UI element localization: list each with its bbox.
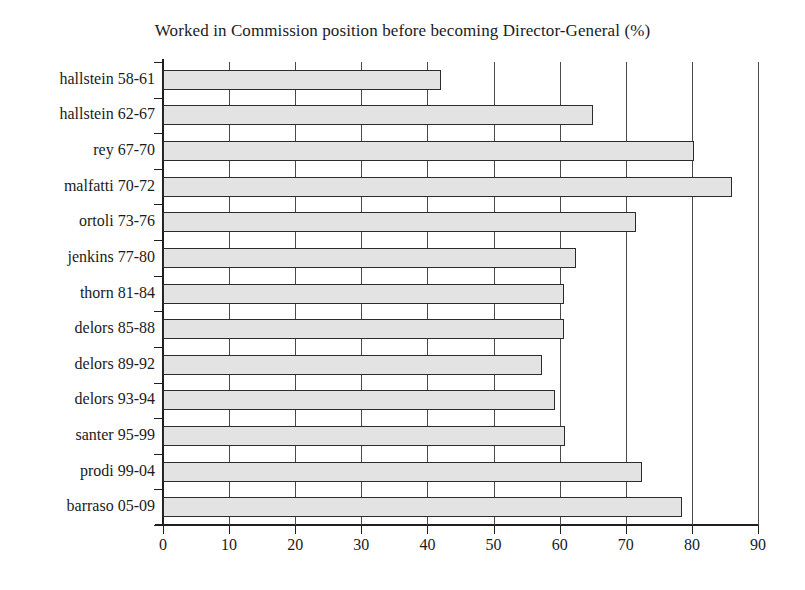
y-axis-category-label: hallstein 58-61 [5, 70, 155, 88]
bar [163, 70, 441, 90]
y-axis-tick [154, 454, 163, 455]
x-axis-tick-labels: 0102030405060708090 [163, 536, 758, 562]
x-axis-tick [626, 525, 627, 534]
x-axis-tick [295, 525, 296, 534]
gridline [692, 62, 693, 525]
x-axis-tick [361, 525, 362, 534]
bar [163, 355, 542, 375]
y-axis-category-label: hallstein 62-67 [5, 105, 155, 123]
y-axis-tick [154, 169, 163, 170]
x-axis-tick-label: 70 [606, 536, 646, 554]
y-axis-tick [154, 311, 163, 312]
bar [163, 426, 565, 446]
bar [163, 177, 732, 197]
bar [163, 284, 564, 304]
x-axis-tick [163, 525, 164, 534]
gridline [758, 62, 759, 525]
x-axis-line [155, 524, 759, 526]
x-axis-tick [692, 525, 693, 534]
bar [163, 141, 694, 161]
y-axis-category-label: barraso 05-09 [5, 497, 155, 515]
y-axis-category-label: ortoli 73-76 [5, 212, 155, 230]
x-axis-tick-label: 0 [143, 536, 183, 554]
bar [163, 390, 555, 410]
x-axis-tick-label: 60 [540, 536, 580, 554]
y-axis-tick [154, 204, 163, 205]
x-axis-tick [494, 525, 495, 534]
x-axis-tick [758, 525, 759, 534]
bar [163, 497, 682, 517]
y-axis-category-label: malfatti 70-72 [5, 177, 155, 195]
y-axis-tick [154, 383, 163, 384]
y-axis-category-label: delors 85-88 [5, 319, 155, 337]
chart-title: Worked in Commission position before bec… [0, 21, 805, 41]
y-axis-tick [154, 276, 163, 277]
x-axis-tick [560, 525, 561, 534]
y-axis-category-label: thorn 81-84 [5, 284, 155, 302]
y-axis-tick [154, 98, 163, 99]
y-axis-tick [154, 489, 163, 490]
x-axis-tick-label: 40 [407, 536, 447, 554]
y-axis-tick [154, 418, 163, 419]
y-axis-category-label: prodi 99-04 [5, 462, 155, 480]
plot-area [163, 62, 758, 525]
x-axis-tick-label: 10 [209, 536, 249, 554]
x-axis-tick [427, 525, 428, 534]
y-axis-category-label: delors 93-94 [5, 390, 155, 408]
y-axis-tick [154, 525, 163, 526]
chart-page: Worked in Commission position before bec… [0, 0, 805, 590]
x-axis-tick-label: 30 [341, 536, 381, 554]
y-axis-category-label: jenkins 77-80 [5, 248, 155, 266]
x-axis-tick-label: 20 [275, 536, 315, 554]
y-axis-tick [154, 240, 163, 241]
y-axis-tick [154, 62, 163, 63]
x-axis-tick [229, 525, 230, 534]
y-axis-tick [154, 347, 163, 348]
bar [163, 105, 593, 125]
gridline [626, 62, 627, 525]
bar [163, 212, 636, 232]
bar [163, 248, 576, 268]
y-axis-category-label: santer 95-99 [5, 426, 155, 444]
y-axis-category-label: rey 67-70 [5, 141, 155, 159]
bar [163, 319, 564, 339]
x-axis-tick-label: 80 [672, 536, 712, 554]
y-axis-category-labels: hallstein 58-61hallstein 62-67rey 67-70m… [0, 62, 155, 525]
y-axis-category-label: delors 89-92 [5, 355, 155, 373]
x-axis-tick-label: 50 [474, 536, 514, 554]
x-axis-tick-label: 90 [738, 536, 778, 554]
bar [163, 462, 642, 482]
y-axis-tick [154, 133, 163, 134]
